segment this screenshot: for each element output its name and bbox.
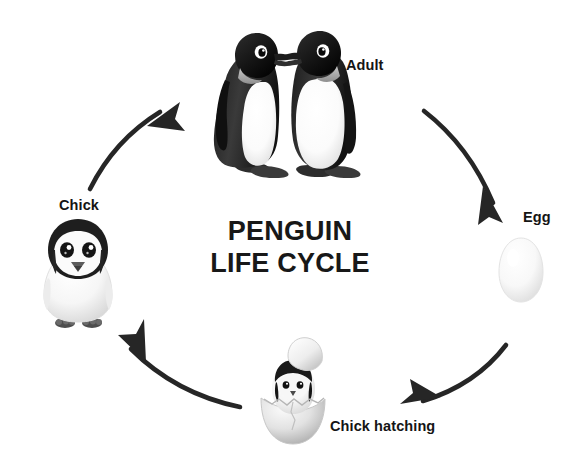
stage-label-adult: Adult bbox=[346, 57, 384, 73]
penguin-life-cycle-diagram: PENGUIN LIFE CYCLE Adult Egg Chick hatch… bbox=[0, 0, 587, 468]
chick-hatching-illustration bbox=[261, 338, 325, 444]
egg-illustration bbox=[499, 238, 543, 302]
stage-label-chick-hatching: Chick hatching bbox=[330, 418, 435, 434]
page-title: PENGUIN LIFE CYCLE bbox=[180, 216, 400, 280]
adult-penguins-illustration bbox=[214, 31, 361, 178]
stage-label-egg: Egg bbox=[523, 209, 551, 225]
title-line-2: LIFE CYCLE bbox=[180, 248, 400, 280]
adult-penguin-right bbox=[281, 31, 361, 178]
arrow-chick-hatching-to-chick bbox=[118, 319, 240, 407]
arrow-adult-to-egg bbox=[424, 111, 503, 225]
adult-penguin-left bbox=[214, 33, 296, 178]
title-line-1: PENGUIN bbox=[180, 216, 400, 248]
arrow-chick-to-adult bbox=[90, 102, 185, 189]
stage-label-chick: Chick bbox=[59, 197, 99, 213]
chick-illustration bbox=[43, 219, 112, 328]
arrow-egg-to-chick-hatching bbox=[400, 345, 506, 404]
